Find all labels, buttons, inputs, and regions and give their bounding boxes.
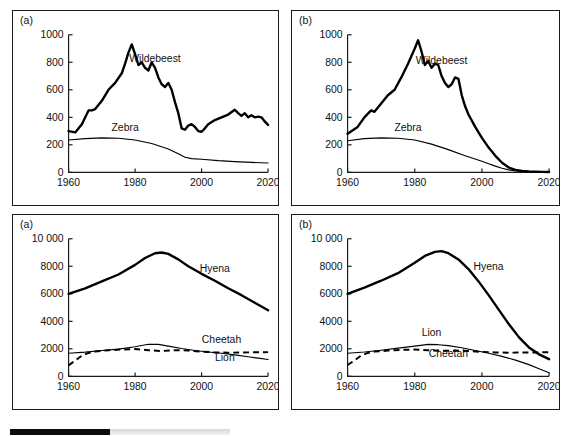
- series-line-zebra: [348, 138, 549, 172]
- y-tick-label: 200: [325, 139, 343, 150]
- y-tick-label: 600: [46, 84, 64, 95]
- y-tick-label: 1000: [319, 29, 342, 40]
- x-tick-label: 1960: [57, 381, 80, 392]
- y-tick-label: 10 000: [311, 233, 343, 244]
- y-tick-label: 600: [325, 84, 343, 95]
- x-tick-label: 1960: [57, 177, 80, 188]
- y-tick-label: 2000: [40, 343, 63, 354]
- series-label-wildebeest: Wildebeest: [416, 55, 468, 66]
- y-tick-label: 2000: [319, 343, 342, 354]
- series-line-zebra: [69, 138, 268, 163]
- series-label-hyena: Hyena: [200, 263, 230, 274]
- x-tick-label: 2000: [190, 381, 213, 392]
- y-tick-label: 6000: [319, 288, 342, 299]
- series-label-cheetah: Cheetah: [429, 348, 469, 359]
- series-label-lion: Lion: [422, 327, 442, 338]
- series-label-wildebeest: Wildebeest: [129, 53, 181, 64]
- plot-wildebeest-zebra-a: 020040060080010001960198020002020Wildebe…: [13, 11, 278, 205]
- series-line-cheetah: [69, 349, 268, 365]
- x-tick-label: 2020: [537, 177, 559, 188]
- x-tick-label: 2020: [256, 177, 278, 188]
- y-tick-label: 1000: [40, 29, 63, 40]
- y-tick-label: 400: [325, 112, 343, 123]
- plot-wildebeest-zebra-b: 020040060080010001960198020002020Wildebe…: [292, 11, 559, 205]
- x-tick-label: 1980: [124, 177, 147, 188]
- y-tick-label: 4000: [40, 316, 63, 327]
- x-tick-label: 2000: [470, 381, 493, 392]
- strip-light-segment: [110, 429, 230, 435]
- panel-top-left: (a) 020040060080010001960198020002020Wil…: [12, 10, 279, 206]
- x-tick-label: 1980: [403, 381, 426, 392]
- series-label-zebra: Zebra: [112, 122, 139, 133]
- bottom-toolbar-strip: [0, 426, 572, 436]
- x-tick-label: 2000: [190, 177, 213, 188]
- series-label-zebra: Zebra: [394, 122, 421, 133]
- panel-bottom-left: (a) 0200040006000800010 0001960198020002…: [12, 214, 279, 410]
- multi-panel-figure: (a) 020040060080010001960198020002020Wil…: [0, 0, 572, 436]
- y-tick-label: 4000: [319, 316, 342, 327]
- series-label-lion: Lion: [215, 352, 235, 363]
- y-tick-label: 200: [46, 139, 64, 150]
- x-tick-label: 1980: [403, 177, 426, 188]
- series-line-hyena: [348, 251, 549, 359]
- y-tick-label: 800: [325, 57, 343, 68]
- series-label-hyena: Hyena: [474, 261, 504, 272]
- series-label-cheetah: Cheetah: [202, 334, 242, 345]
- y-tick-label: 10 000: [32, 233, 64, 244]
- y-tick-label: 8000: [319, 261, 342, 272]
- x-tick-label: 2000: [470, 177, 493, 188]
- y-tick-label: 400: [46, 112, 64, 123]
- y-tick-label: 6000: [40, 288, 63, 299]
- x-tick-label: 1980: [124, 381, 147, 392]
- plot-predators-b: 0200040006000800010 0001960198020002020H…: [292, 215, 559, 409]
- plot-predators-a: 0200040006000800010 0001960198020002020H…: [13, 215, 278, 409]
- panel-top-right: (b) 020040060080010001960198020002020Wil…: [291, 10, 560, 206]
- series-line-hyena: [69, 253, 268, 311]
- y-tick-label: 8000: [40, 261, 63, 272]
- y-tick-label: 800: [46, 57, 64, 68]
- strip-dark-segment: [10, 429, 110, 435]
- x-tick-label: 2020: [537, 381, 559, 392]
- x-tick-label: 1960: [336, 381, 359, 392]
- x-tick-label: 2020: [256, 381, 278, 392]
- panel-bottom-right: (b) 0200040006000800010 0001960198020002…: [291, 214, 560, 410]
- x-tick-label: 1960: [336, 177, 359, 188]
